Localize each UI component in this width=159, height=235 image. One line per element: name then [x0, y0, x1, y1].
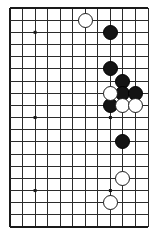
- white-stone[interactable]: [103, 195, 118, 210]
- go-stone-layer: [0, 0, 159, 235]
- white-stone[interactable]: [128, 98, 143, 113]
- white-stone[interactable]: [103, 86, 118, 101]
- go-board-diagram: [0, 0, 159, 235]
- white-stone[interactable]: [115, 171, 130, 186]
- white-stone[interactable]: [78, 13, 93, 28]
- black-stone[interactable]: [103, 61, 118, 76]
- black-stone[interactable]: [115, 134, 130, 149]
- black-stone[interactable]: [103, 25, 118, 40]
